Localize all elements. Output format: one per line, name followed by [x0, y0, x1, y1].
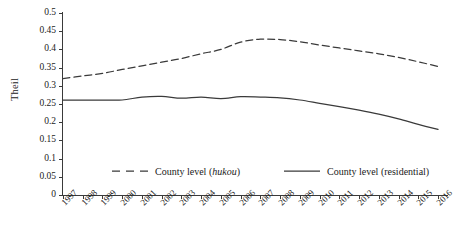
y-tick: [59, 49, 63, 50]
y-tick: [59, 159, 63, 160]
y-axis-title: Theil: [9, 60, 20, 120]
y-tick-label: 0.2: [44, 117, 56, 127]
y-tick: [59, 31, 63, 32]
y-tick-label: 0.4: [44, 45, 56, 55]
y-tick-label: 0.15: [39, 136, 56, 146]
legend-swatch-solid-icon: [284, 166, 320, 176]
y-tick-label: 0.3: [44, 81, 56, 91]
y-tick: [59, 140, 63, 141]
y-tick-label: 0: [51, 190, 56, 200]
legend-swatch-dashed-icon: [112, 166, 148, 176]
y-tick: [59, 104, 63, 105]
chart-figure: Theil 00.050.10.150.20.250.30.350.40.450…: [0, 0, 458, 242]
y-tick-label: 0.1: [44, 154, 56, 164]
y-tick: [59, 68, 63, 69]
y-tick-label: 0.5: [44, 8, 56, 18]
legend-label: County level (residential): [327, 166, 429, 177]
legend-item: County level (hukou): [112, 163, 240, 179]
y-tick: [59, 122, 63, 123]
y-tick-label: 0.05: [39, 172, 56, 182]
y-tick: [59, 13, 63, 14]
y-tick-label: 0.45: [39, 26, 56, 36]
y-tick-label: 0.25: [39, 99, 56, 109]
legend-label: County level (hukou): [155, 166, 240, 177]
y-tick: [59, 86, 63, 87]
y-tick-label: 0.35: [39, 63, 56, 73]
y-tick: [59, 177, 63, 178]
legend-item: County level (residential): [284, 163, 429, 179]
chart-legend: County level (hukou)County level (reside…: [112, 163, 412, 179]
